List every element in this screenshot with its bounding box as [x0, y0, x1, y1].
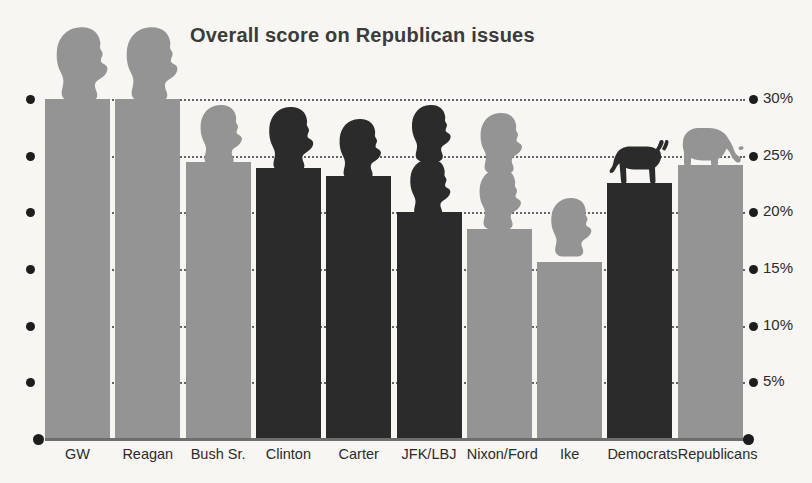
y-axis-tick-dot-right	[749, 152, 758, 161]
y-axis-tick-dot-left	[26, 95, 35, 104]
bar-nixon-ford[interactable]	[467, 229, 532, 439]
x-axis-label-democrats: Democrats	[607, 446, 672, 462]
bar-reagan[interactable]	[115, 99, 180, 439]
y-axis-tick-dot-left	[26, 208, 35, 217]
bar-carter[interactable]	[326, 176, 391, 439]
x-axis-end-dot	[743, 434, 754, 445]
chart-container: Overall score on Republican issues 30%25…	[0, 0, 812, 483]
head-silhouette-lbj	[402, 158, 460, 218]
bar-ike[interactable]	[537, 262, 602, 439]
bar-clinton[interactable]	[256, 168, 321, 439]
y-axis-tick-label: 10%	[763, 316, 793, 333]
chart-title: Overall score on Republican issues	[190, 24, 535, 47]
x-axis-label-jfk-lbj: JFK/LBJ	[397, 446, 462, 462]
donkey-mascot-icon	[609, 140, 671, 184]
bar-jfk-lbj[interactable]	[397, 212, 462, 439]
bar-democrats[interactable]	[607, 183, 672, 439]
head-silhouette-reagan	[123, 26, 183, 102]
x-axis-label-reagan: Reagan	[115, 446, 180, 462]
y-axis-tick-label: 15%	[763, 259, 793, 276]
x-axis-origin-dot	[33, 434, 44, 445]
y-axis-tick-dot-right	[749, 208, 758, 217]
y-axis-tick-dot-right	[749, 265, 758, 274]
head-silhouette-gw	[53, 26, 113, 102]
y-axis-tick-dot-left	[26, 265, 35, 274]
head-silhouette-jfk	[404, 104, 460, 162]
head-silhouette-bush-sr	[196, 104, 248, 166]
x-axis-label-nixon-ford: Nixon/Ford	[467, 446, 532, 462]
y-axis-tick-label: 5%	[763, 372, 785, 389]
y-axis-tick-label: 30%	[763, 89, 793, 106]
y-axis-tick-dot-right	[749, 378, 758, 387]
head-silhouette-nixon	[475, 112, 529, 174]
x-axis-label-ike: Ike	[537, 446, 602, 462]
plot-area: 30%25%20%15%10%5%	[45, 60, 745, 439]
x-axis-label-gw: GW	[45, 446, 110, 462]
head-silhouette-ike	[546, 197, 598, 257]
y-axis-tick-label: 20%	[763, 202, 793, 219]
x-axis-baseline	[45, 438, 748, 441]
head-silhouette-carter	[333, 118, 389, 180]
y-axis-tick-dot-right	[749, 322, 758, 331]
head-silhouette-ford	[473, 168, 529, 230]
y-axis-tick-dot-left	[26, 152, 35, 161]
bar-gw[interactable]	[45, 99, 110, 439]
y-axis-tick-label: 25%	[763, 146, 793, 163]
y-axis-tick-dot-right	[749, 95, 758, 104]
x-axis-label-carter: Carter	[326, 446, 391, 462]
x-axis-label-republicans: Republicans	[678, 446, 743, 462]
bar-bush-sr[interactable]	[186, 162, 251, 439]
y-axis-tick-dot-left	[26, 378, 35, 387]
x-axis-label-bush-sr: Bush Sr.	[186, 446, 251, 462]
x-axis-label-clinton: Clinton	[256, 446, 321, 462]
elephant-mascot-icon	[680, 126, 744, 168]
y-axis-tick-dot-left	[26, 322, 35, 331]
bar-republicans[interactable]	[678, 165, 743, 439]
head-silhouette-clinton	[263, 106, 321, 172]
